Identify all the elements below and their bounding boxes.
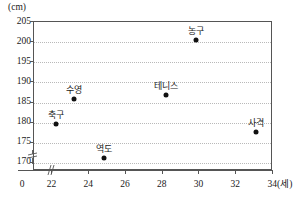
data-point-label: 농구 xyxy=(188,26,204,36)
x-tick-label: 22 xyxy=(47,179,57,189)
data-point xyxy=(254,129,259,134)
data-point xyxy=(101,156,106,161)
gridline xyxy=(34,42,271,43)
x-axis-origin-label: 0 xyxy=(20,179,25,189)
x-tick-label-with-unit: 34(세) xyxy=(268,179,293,189)
data-point-label: 역도 xyxy=(96,144,112,154)
data-point-label: 수영 xyxy=(66,85,82,95)
y-tick-label: 180 xyxy=(1,117,31,127)
x-tick-mark xyxy=(235,170,236,174)
x-tick-mark xyxy=(198,170,199,174)
x-tick-label: 24 xyxy=(83,179,93,189)
x-tick-label: 32 xyxy=(230,179,240,189)
gridline xyxy=(34,103,271,104)
y-axis-ticks: 205200195190185180175170 xyxy=(0,21,31,170)
x-tick-mark xyxy=(162,170,163,174)
plot-area: 축구수영역도테니스농구사격 xyxy=(33,21,272,170)
y-tick-mark xyxy=(30,142,33,143)
scatter-chart: (cm) 축구수영역도테니스농구사격 205200195190185180175… xyxy=(0,0,299,198)
data-point xyxy=(54,121,59,126)
data-point xyxy=(72,96,77,101)
y-axis-break-icon xyxy=(26,150,39,164)
gridline xyxy=(34,163,271,164)
y-tick-mark xyxy=(30,21,33,22)
data-point-label: 테니스 xyxy=(154,81,178,91)
x-tick-label: 30 xyxy=(194,179,204,189)
gridline xyxy=(34,82,271,83)
x-tick-mark xyxy=(88,170,89,174)
y-tick-mark xyxy=(30,102,33,103)
y-tick-label: 195 xyxy=(1,57,31,67)
y-tick-label: 185 xyxy=(1,97,31,107)
y-axis-unit-label: (cm) xyxy=(8,2,26,12)
gridline xyxy=(34,62,271,63)
y-tick-label: 175 xyxy=(1,137,31,147)
y-tick-label: 200 xyxy=(1,37,31,47)
x-tick-mark xyxy=(125,170,126,174)
y-tick-mark xyxy=(30,81,33,82)
y-tick-mark xyxy=(30,61,33,62)
data-point xyxy=(164,93,169,98)
y-tick-label: 190 xyxy=(1,77,31,87)
x-tick-label: 28 xyxy=(157,179,167,189)
y-tick-label: 205 xyxy=(1,17,31,27)
x-tick-label: 26 xyxy=(120,179,130,189)
x-tick-mark xyxy=(272,170,273,174)
y-tick-mark xyxy=(30,41,33,42)
data-point-label: 축구 xyxy=(48,110,64,120)
data-point xyxy=(193,38,198,43)
gridline xyxy=(34,123,271,124)
x-axis-break-icon xyxy=(44,163,56,177)
y-tick-mark xyxy=(30,122,33,123)
gridline xyxy=(34,143,271,144)
data-point-label: 사격 xyxy=(248,118,264,128)
